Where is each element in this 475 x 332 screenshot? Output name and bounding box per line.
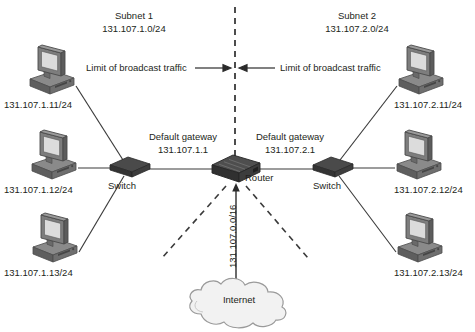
- subnet-1-title-block: Subnet 1 131.107.1.0/24: [102, 10, 165, 35]
- link-host-2-11: [340, 86, 397, 160]
- switch-left-label: Switch: [108, 180, 136, 192]
- router-ray-left: [162, 186, 226, 258]
- default-gateway-1-block: Default gateway 131.107.1.1: [149, 131, 217, 156]
- host-address-label: 131.107.1.12/24: [4, 184, 73, 196]
- link-host-2-13: [339, 176, 396, 252]
- computer-icon[interactable]: [32, 130, 76, 179]
- connector-layer: [0, 0, 475, 332]
- subnet-2-name: Subnet 2: [325, 10, 388, 23]
- computer-icon[interactable]: [33, 213, 77, 262]
- subnet-1-cidr: 131.107.1.0/24: [102, 23, 165, 36]
- computer-icon[interactable]: [398, 213, 442, 262]
- computer-icon[interactable]: [399, 45, 443, 94]
- limit-arrow-right: [239, 65, 275, 72]
- limit-of-broadcast-traffic-right: Limit of broadcast traffic: [280, 62, 381, 74]
- limit-of-broadcast-traffic-left: Limit of broadcast traffic: [86, 62, 187, 74]
- host-address-label: 131.107.1.11/24: [4, 99, 72, 111]
- default-gateway-2-title: Default gateway: [256, 131, 324, 144]
- host-address-label: 131.107.1.13/24: [4, 267, 73, 279]
- internet-cloud-label: Internet: [223, 294, 255, 305]
- switch-icon[interactable]: [313, 157, 353, 177]
- default-gateway-1-title: Default gateway: [149, 131, 217, 144]
- limit-arrow-left: [195, 65, 231, 72]
- host-address-label: 131.107.2.12/24: [394, 184, 463, 196]
- switch-icon[interactable]: [110, 157, 150, 177]
- supernet-address-label: 131.107.0.0/16: [227, 205, 238, 268]
- router-label: Router: [245, 172, 274, 184]
- computer-icon[interactable]: [30, 45, 74, 94]
- subnet-2-cidr: 131.107.2.0/24: [325, 23, 388, 36]
- default-gateway-2-block: Default gateway 131.107.2.1: [256, 131, 324, 156]
- link-host-1-11: [76, 86, 123, 160]
- host-address-label: 131.107.2.13/24: [394, 267, 463, 279]
- subnet-2-title-block: Subnet 2 131.107.2.0/24: [325, 10, 388, 35]
- default-gateway-1-address: 131.107.1.1: [149, 144, 217, 157]
- computer-icon[interactable]: [397, 130, 441, 179]
- subnet-1-name: Subnet 1: [102, 10, 165, 23]
- router-ray-right: [246, 186, 308, 258]
- switch-right-label: Switch: [313, 180, 341, 192]
- default-gateway-2-address: 131.107.2.1: [256, 144, 324, 157]
- host-address-label: 131.107.2.11/24: [394, 99, 462, 111]
- network-diagram-canvas: Subnet 1 131.107.1.0/24 Subnet 2 131.107…: [0, 0, 475, 332]
